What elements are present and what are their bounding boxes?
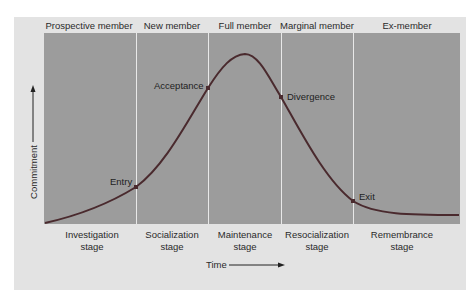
stage-label-line: Socialization [145, 229, 198, 241]
point-label-divergence: Divergence [287, 91, 335, 102]
point-label-exit: Exit [359, 191, 375, 202]
stage-label-line: Investigation [65, 229, 118, 241]
stage-label-line: Maintenance [218, 229, 272, 241]
commitment-curve [0, 0, 475, 301]
stage-label-line: stage [285, 241, 349, 253]
point-label-entry: Entry [110, 176, 132, 187]
x-axis-label: Time [206, 259, 227, 270]
stage-label-socialization: Socialization stage [145, 229, 198, 253]
stage-label-line: Remembrance [371, 229, 433, 241]
y-axis-label: Commitment [28, 145, 39, 199]
stage-label-line: stage [218, 241, 272, 253]
stage-label-line: stage [65, 241, 118, 253]
stage-label-line: Resocialization [285, 229, 349, 241]
divergence-marker [279, 95, 283, 99]
stage-label-line: stage [371, 241, 433, 253]
stage-label-maintenance: Maintenance stage [218, 229, 272, 253]
acceptance-marker [206, 86, 210, 90]
stage-label-line: stage [145, 241, 198, 253]
entry-marker [134, 185, 138, 189]
exit-marker [351, 199, 355, 203]
stage-label-resocialization: Resocialization stage [285, 229, 349, 253]
stage-label-investigation: Investigation stage [65, 229, 118, 253]
point-label-acceptance: Acceptance [154, 80, 204, 91]
stage-label-remembrance: Remembrance stage [371, 229, 433, 253]
